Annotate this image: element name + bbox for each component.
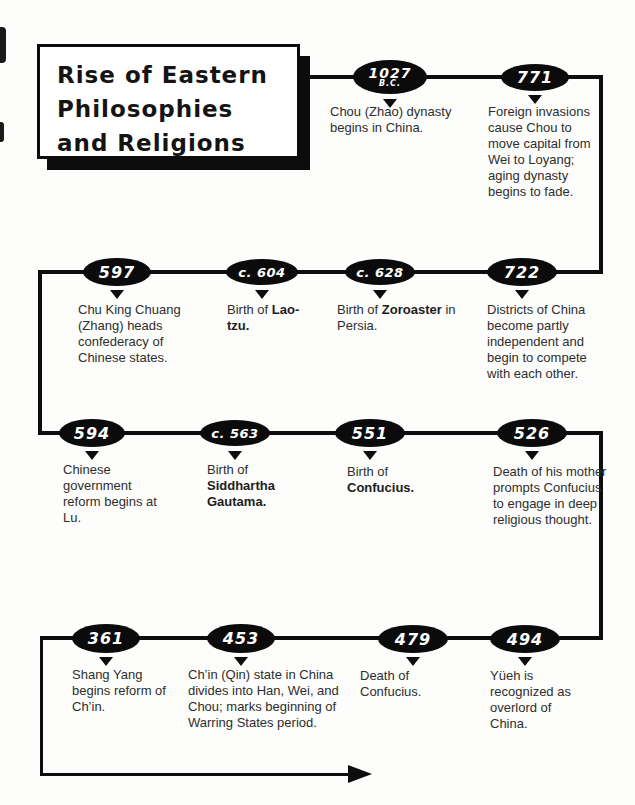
scan-artifact: [0, 122, 4, 142]
event-description: Birth of Siddhartha Gautama.: [207, 462, 299, 510]
event-description: Yüeh is recognized as overlord of China.: [490, 668, 592, 732]
event-description: Birth of Confucius.: [347, 464, 439, 496]
date-oval-597: 597: [83, 258, 151, 286]
event-date: 597: [99, 265, 135, 280]
event-description: Birth of Zoroaster in Persia.: [337, 302, 465, 334]
event-date: 453: [223, 631, 259, 646]
page-title-line1: Rise of Eastern: [57, 58, 297, 92]
event-date: 771: [517, 70, 553, 85]
event-date: 494: [507, 632, 543, 647]
date-oval-594: 594: [59, 419, 125, 447]
event-date: 551: [352, 426, 388, 441]
triangle-marker-icon: [525, 451, 539, 460]
page-title-line2: Philosophies: [57, 92, 297, 126]
event-description: Death of Confucius.: [360, 668, 448, 700]
event-description: Death of his mother prompts Confucius to…: [493, 464, 613, 528]
scan-artifact: [0, 27, 6, 63]
date-oval-c563: c. 563: [200, 420, 270, 446]
date-oval-479: 479: [378, 625, 448, 653]
triangle-marker-icon: [85, 451, 99, 460]
date-oval-453: 453: [207, 624, 275, 653]
event-date: 1027: [369, 67, 412, 80]
date-oval-722: 722: [487, 258, 557, 286]
event-date: 594: [74, 426, 110, 441]
event-date: c. 628: [356, 265, 403, 280]
timeline-line-bottom: [40, 773, 350, 776]
event-description: Chu King Chuang (Zhang) heads confederac…: [78, 302, 202, 366]
event-description: Districts of China become partly indepen…: [487, 302, 605, 382]
triangle-marker-icon: [234, 657, 248, 666]
event-date-era: B.C.: [379, 80, 401, 88]
page-title-line3: and Religions: [57, 126, 297, 160]
triangle-marker-icon: [255, 290, 269, 299]
date-oval-c628: c. 628: [345, 259, 415, 285]
event-date: c. 563: [211, 426, 258, 441]
triangle-marker-icon: [518, 657, 532, 666]
event-date: 722: [504, 265, 540, 280]
event-date: 361: [88, 631, 124, 646]
date-oval-361: 361: [72, 624, 140, 653]
triangle-marker-icon: [515, 290, 529, 299]
event-description: Foreign invasions cause Chou to move cap…: [488, 104, 600, 200]
triangle-marker-icon: [99, 657, 113, 666]
event-date: c. 604: [238, 265, 285, 280]
triangle-marker-icon: [228, 451, 242, 460]
event-description: Chinese government reform begins at Lu.: [63, 462, 159, 526]
date-oval-551: 551: [335, 419, 405, 447]
event-description: Chou (Zhao) dynasty begins in China.: [330, 104, 466, 136]
timeline-line-left-drop2: [40, 636, 43, 776]
timeline-arrow-icon: [348, 765, 372, 783]
triangle-marker-icon: [363, 451, 377, 460]
event-description: Birth of Lao-tzu.: [227, 302, 311, 334]
triangle-marker-icon: [406, 657, 420, 666]
title-box: Rise of Eastern Philosophies and Religio…: [37, 44, 300, 159]
timeline-line-right-drop2: [599, 431, 603, 640]
triangle-marker-icon: [373, 290, 387, 299]
event-date: 479: [395, 632, 431, 647]
date-oval-c604: c. 604: [226, 259, 298, 285]
date-oval-526: 526: [497, 419, 567, 447]
event-description: Ch’in (Qin) state in China divides into …: [188, 667, 342, 731]
timeline-line-left-drop1: [38, 270, 42, 435]
triangle-marker-icon: [110, 290, 124, 299]
timeline-page: Rise of Eastern Philosophies and Religio…: [0, 0, 635, 805]
triangle-marker-icon: [528, 95, 542, 104]
date-oval-771: 771: [501, 64, 569, 91]
date-oval-494: 494: [490, 625, 560, 653]
event-date: 526: [514, 426, 550, 441]
date-oval-1027: 1027 B.C.: [353, 60, 427, 94]
event-description: Shang Yang begins reform of Ch’in.: [72, 667, 172, 715]
